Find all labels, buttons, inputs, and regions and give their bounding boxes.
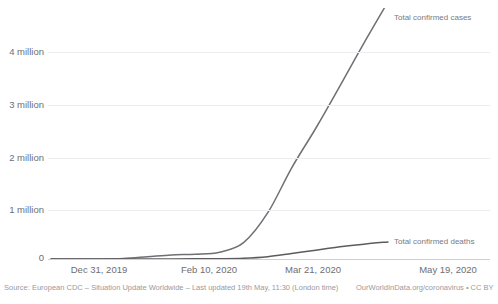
plot-area xyxy=(48,8,490,260)
y-tick-label-1m: 1 million xyxy=(9,205,48,215)
gridline-2m xyxy=(48,158,490,159)
source-note: Source: European CDC – Situation Update … xyxy=(4,283,338,293)
series-label-deaths: Total confirmed deaths xyxy=(394,237,475,246)
y-axis-labels: 4 million 3 million 2 million 1 million … xyxy=(0,8,48,260)
credit-note[interactable]: OurWorldInData.org/coronavirus • CC BY xyxy=(356,283,494,293)
y-tick-label-zero: 0 xyxy=(39,253,48,263)
gridline-1m xyxy=(48,210,490,211)
clipped-subtitle xyxy=(4,0,234,4)
x-axis-labels: Dec 31, 2019 Feb 10, 2020 Mar 21, 2020 M… xyxy=(0,264,498,278)
y-tick-label-2m: 2 million xyxy=(9,153,48,163)
series-lines xyxy=(48,8,490,260)
y-tick-label-3m: 3 million xyxy=(9,100,48,110)
covid-line-chart: 4 million 3 million 2 million 1 million … xyxy=(0,0,498,304)
x-tick-label-may-19-2020: May 19, 2020 xyxy=(419,264,477,276)
footer: Source: European CDC – Situation Update … xyxy=(4,283,494,295)
series-label-cases: Total confirmed cases xyxy=(394,13,471,22)
x-tick-label-mar-21-2020: Mar 21, 2020 xyxy=(285,264,341,276)
line-total-confirmed-cases xyxy=(51,8,388,259)
line-total-confirmed-deaths xyxy=(51,242,388,259)
x-tick-label-dec-31-2019: Dec 31, 2019 xyxy=(71,264,128,276)
gridline-3m xyxy=(48,105,490,106)
gridline-4m xyxy=(48,52,490,53)
x-tick-label-feb-10-2020: Feb 10, 2020 xyxy=(181,264,237,276)
y-tick-label-4m: 4 million xyxy=(9,47,48,57)
x-axis-baseline xyxy=(48,259,490,260)
